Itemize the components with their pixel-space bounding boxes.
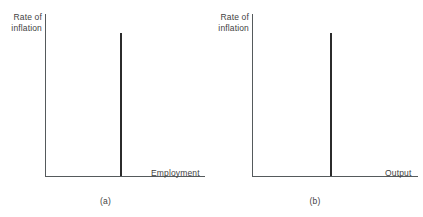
x-axis-label: Employment <box>151 168 200 178</box>
vertical-curve-line <box>330 33 332 176</box>
y-axis-label: Rate of inflation <box>207 12 249 34</box>
chart-panel-a: Rate of inflation Employment (a) <box>0 0 211 217</box>
y-axis-line <box>252 14 253 176</box>
y-axis-label: Rate of inflation <box>0 12 42 34</box>
y-axis-line <box>45 14 46 176</box>
panel-caption: (a) <box>0 196 211 206</box>
vertical-curve-line <box>120 33 122 176</box>
chart-panel-b: Rate of inflation Output (b) <box>207 0 423 217</box>
two-panel-figure: Rate of inflation Employment (a) Rate of… <box>0 0 423 217</box>
x-axis-label: Output <box>385 168 411 178</box>
panel-caption: (b) <box>207 196 423 206</box>
